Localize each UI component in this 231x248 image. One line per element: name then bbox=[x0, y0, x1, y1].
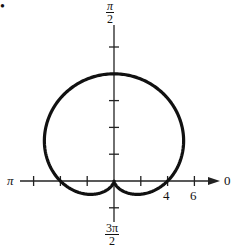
polar-plot bbox=[0, 0, 231, 248]
arrowhead-icon bbox=[208, 177, 220, 185]
angle-label-top: π 2 bbox=[106, 0, 114, 25]
angle-label-left: π bbox=[7, 174, 14, 187]
angle-label-right: 0 bbox=[224, 174, 231, 187]
angle-label-bottom: 3π 2 bbox=[105, 222, 119, 247]
tick-label-4: 4 bbox=[163, 189, 170, 202]
tick-label-6: 6 bbox=[190, 189, 197, 202]
